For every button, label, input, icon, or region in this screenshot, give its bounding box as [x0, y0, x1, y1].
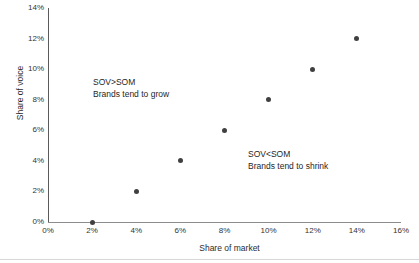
- data-point: [354, 36, 359, 41]
- y-axis-line: [48, 8, 49, 222]
- x-tick-label: 0%: [28, 226, 68, 236]
- annotation-grow-line1: SOV>SOM: [93, 76, 169, 88]
- annotation-shrink-line2: Brands tend to shrink: [248, 160, 328, 172]
- bottom-divider: [0, 259, 419, 260]
- annotation-sov-greater: SOV>SOM Brands tend to grow: [93, 76, 169, 100]
- y-axis-title: Share of voice: [15, 33, 25, 153]
- data-point: [90, 220, 95, 225]
- annotation-shrink-line1: SOV<SOM: [248, 148, 328, 160]
- annotation-sov-less: SOV<SOM Brands tend to shrink: [248, 148, 328, 172]
- x-tick-label: 2%: [72, 226, 112, 236]
- x-axis-title: Share of market: [0, 243, 419, 253]
- y-tick-label: 2%: [4, 186, 44, 196]
- x-tick-label: 10%: [249, 226, 289, 236]
- data-point: [222, 128, 227, 133]
- x-axis-line: [48, 222, 401, 223]
- y-tick-label: 4%: [4, 156, 44, 166]
- scatter-chart: 0%2%4%6%8%10%12%14% 0%2%4%6%8%10%12%14%1…: [0, 0, 419, 263]
- x-tick-label: 16%: [381, 226, 419, 236]
- data-point: [178, 158, 183, 163]
- data-point: [310, 67, 315, 72]
- data-point: [134, 189, 139, 194]
- x-tick-label: 8%: [205, 226, 245, 236]
- x-tick-label: 14%: [337, 226, 377, 236]
- x-tick-label: 12%: [293, 226, 333, 236]
- x-tick-label: 4%: [116, 226, 156, 236]
- annotation-grow-line2: Brands tend to grow: [93, 88, 169, 100]
- x-tick-label: 6%: [160, 226, 200, 236]
- data-point: [266, 97, 271, 102]
- y-tick-label: 14%: [4, 3, 44, 13]
